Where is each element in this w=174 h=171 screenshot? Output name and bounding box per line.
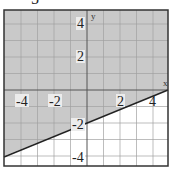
- shaded-region: [4, 10, 168, 156]
- svg-text:2: 2: [117, 94, 124, 109]
- x-axis-label: x: [163, 78, 168, 88]
- svg-text:-4: -4: [72, 150, 84, 165]
- svg-text:4: 4: [77, 16, 84, 31]
- svg-text:4: 4: [149, 94, 156, 109]
- svg-text:-2: -2: [72, 117, 84, 132]
- y-axis-label: y: [91, 11, 96, 21]
- svg-text:-2: -2: [49, 94, 61, 109]
- inequality-graph: -4 -2 2 4 4 2 -2 -4 y x: [0, 0, 174, 171]
- svg-text:2: 2: [77, 49, 84, 64]
- svg-text:-4: -4: [16, 94, 28, 109]
